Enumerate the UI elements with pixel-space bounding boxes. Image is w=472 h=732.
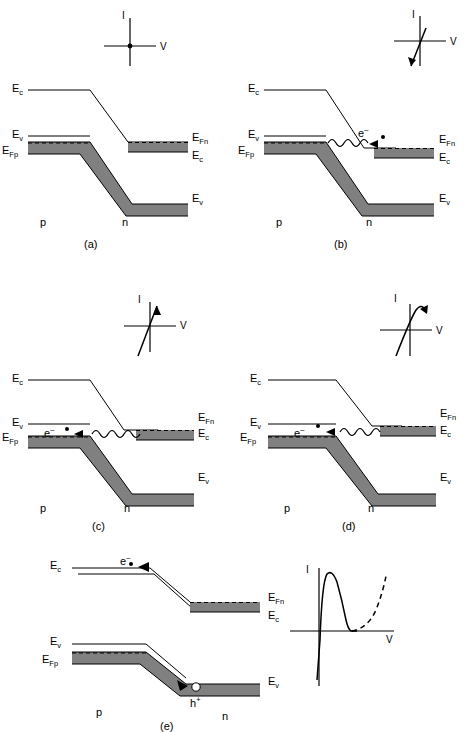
panel-c-voltage-axis-label: V [180, 320, 187, 331]
panel-b-region-p: p [276, 216, 282, 228]
panel-b-label-efp: EFp [238, 145, 254, 156]
panel-a-band-diagram [28, 78, 228, 208]
panel-e-caption: (e) [160, 720, 173, 732]
panel-b-current-axis-label: I [412, 9, 415, 20]
panel-d-region-n: n [368, 502, 374, 514]
panel-e-carrier-hole: h+ [190, 698, 201, 709]
panel-d-label-efp: EFp [240, 432, 256, 443]
panel-e-label-ec-left: Ec [50, 560, 61, 571]
panel-d-current-axis-label: I [394, 293, 397, 304]
panel-b-label-efn: EFn [439, 134, 455, 145]
panel-e-label-ev-left: Ev [50, 636, 61, 647]
main-iv-current-axis-label: I [306, 564, 309, 575]
panel-c-label-ec-left: Ec [12, 373, 23, 384]
panel-b: I V e– Ec Ev EFp EFn Ec Ev p n (b) [236, 0, 472, 250]
panel-e-band-diagram [50, 548, 280, 698]
panel-d-label-efn: EFn [440, 408, 456, 419]
panel-b-voltage-axis-label: V [450, 36, 457, 47]
main-iv-voltage-axis-label: V [386, 634, 393, 645]
panel-a-label-ev-right: Ev [192, 193, 203, 204]
panel-b-carrier-electron: e– [358, 128, 368, 139]
panel-a: I V Ec Ev EFp EFn Ec Ev p n (a) [0, 0, 236, 250]
panel-d-region-p: p [284, 502, 290, 514]
panel-a-current-axis-label: I [122, 10, 125, 21]
panel-c-current-axis-label: I [138, 294, 141, 305]
panel-b-caption: (b) [334, 238, 347, 250]
panel-a-label-ec-right: Ec [192, 150, 203, 161]
panel-a-caption: (a) [84, 238, 97, 250]
panel-e-label-efn: EFn [268, 592, 284, 603]
panel-a-voltage-axis-label: V [160, 41, 167, 52]
panel-e-label-ec-right: Ec [268, 610, 279, 621]
panel-c-label-ev-left: Ev [12, 417, 23, 428]
panel-c-label-efp: EFp [2, 432, 18, 443]
panel-c-label-ec-right: Ec [198, 428, 209, 439]
panel-e-carrier-electron: e– [120, 556, 130, 567]
panel-d-voltage-axis-label: V [436, 325, 443, 336]
panel-c-label-ev-right: Ev [198, 472, 209, 483]
panel-e: Ec e– EFn Ec Ev EFp Ev h+ p n (e) [0, 530, 300, 732]
panel-d-label-ec-right: Ec [440, 425, 451, 436]
main-iv-plot-svg [290, 548, 470, 698]
panel-a-region-n: n [122, 216, 128, 228]
panel-a-label-ev-left: Ev [12, 129, 23, 140]
panel-c: I V e– Ec Ev EFp EFn Ec Ev p n (c) [0, 280, 236, 530]
panel-b-label-ec-right: Ec [439, 152, 450, 163]
main-iv-plot: I V [290, 540, 472, 720]
panel-a-label-efn: EFn [192, 132, 208, 143]
panel-d-caption: (d) [342, 520, 355, 532]
panel-b-band-diagram [264, 78, 464, 208]
panel-b-label-ev-left: Ev [248, 129, 259, 140]
panel-e-region-p: p [96, 706, 102, 718]
figure-page: { "figure": { "title": "Tunnel diode ene… [0, 0, 472, 732]
panel-d: I V e– Ec Ev EFp EFn Ec Ev p n (d) [236, 280, 472, 530]
panel-b-iv-inset [380, 8, 460, 74]
panel-e-label-ev-right: Ev [268, 676, 279, 687]
panel-c-carrier-electron: e– [44, 428, 54, 439]
panel-c-region-p: p [40, 502, 46, 514]
panel-a-iv-inset [90, 8, 170, 68]
panel-b-label-ev-right: Ev [439, 193, 450, 204]
panel-d-carrier-electron: e– [294, 428, 304, 439]
panel-c-region-n: n [124, 502, 130, 514]
panel-b-label-ec-left: Ec [248, 83, 259, 94]
panel-a-label-efp: EFp [2, 145, 18, 156]
panel-c-label-efn: EFn [198, 412, 214, 423]
panel-a-region-p: p [40, 216, 46, 228]
panel-e-label-efp: EFp [42, 654, 58, 665]
panel-d-label-ev-left: Ev [250, 417, 261, 428]
panel-a-label-ec-left: Ec [12, 83, 23, 94]
panel-d-label-ev-right: Ev [440, 472, 451, 483]
panel-d-label-ec-left: Ec [250, 373, 261, 384]
panel-b-region-n: n [366, 216, 372, 228]
panel-e-region-n: n [222, 710, 228, 722]
